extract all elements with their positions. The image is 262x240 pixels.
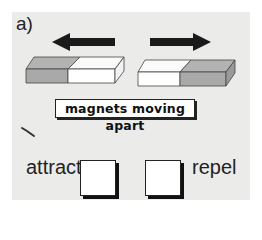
right-magnet: [138, 60, 235, 86]
attract-label: attract: [26, 156, 82, 179]
arrow-left-icon: [52, 33, 115, 51]
arrow-right-icon: [150, 33, 211, 51]
caption-label: magnets moving apart: [55, 99, 195, 118]
left-magnet: [26, 57, 124, 83]
repel-checkbox[interactable]: [145, 160, 181, 196]
attract-checkbox[interactable]: [80, 160, 116, 196]
pencil-mark-icon: [22, 128, 34, 136]
repel-label: repel: [192, 156, 236, 179]
